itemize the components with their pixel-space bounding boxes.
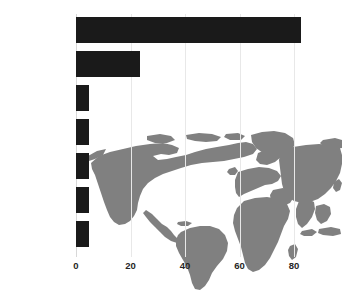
bar-value-rect[interactable] bbox=[76, 17, 301, 43]
x-axis-tick-label: 20 bbox=[111, 260, 151, 271]
bar-value-rect[interactable] bbox=[76, 51, 140, 77]
bar-value-rect[interactable] bbox=[76, 85, 89, 111]
x-axis-tick-label: 80 bbox=[274, 260, 314, 271]
x-axis-tick-label: 0 bbox=[56, 260, 96, 271]
x-axis-tick-label: 40 bbox=[165, 260, 205, 271]
bar-value-rect[interactable] bbox=[76, 187, 89, 213]
bar-value-rect[interactable] bbox=[76, 153, 89, 179]
gridline-60 bbox=[240, 14, 241, 257]
bar-value-rect[interactable] bbox=[76, 221, 89, 247]
plot-area: United States China Brazil Germany Great… bbox=[0, 0, 342, 303]
x-axis-tick-label: 60 bbox=[220, 260, 260, 271]
gridline-40 bbox=[185, 14, 186, 257]
bar-chart-with-world-map-background: United States China Brazil Germany Great… bbox=[0, 0, 342, 303]
bar-value-rect[interactable] bbox=[76, 119, 89, 145]
gridline-80 bbox=[294, 14, 295, 257]
